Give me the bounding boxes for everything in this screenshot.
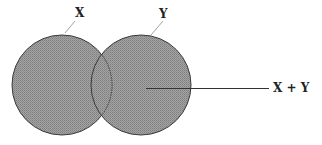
- label-set-x: X: [75, 7, 84, 19]
- label-set-y: Y: [159, 8, 168, 20]
- circle-y: [91, 35, 191, 135]
- leader-line-x: [65, 21, 75, 33]
- label-union: X + Y: [273, 82, 309, 94]
- venn-diagram: [0, 0, 322, 145]
- leader-line-y: [151, 21, 163, 35]
